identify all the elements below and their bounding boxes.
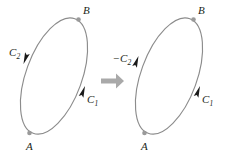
left-closed-curve [7,9,101,143]
right-diagram: B A − C 2 C 1 [113,4,216,152]
right-point-a-dot [142,131,147,136]
left-point-b-label: B [83,4,90,16]
left-arc-c2-label: C 2 [9,46,21,61]
left-arc-c2-subscript: 2 [17,52,21,61]
left-arc-c1-label: C 1 [87,93,98,108]
curve-orientation-figure: B A C 2 C 1 B A [0,0,225,160]
right-point-b-label: B [198,4,205,16]
right-arc-neg-c2-label: − C 2 [113,52,132,67]
left-point-a-label: A [25,140,33,152]
left-point-a-dot [27,131,32,136]
left-arc-c1-subscript: 1 [95,99,99,108]
right-closed-curve [122,9,216,143]
left-diagram: B A C 2 C 1 [7,4,101,152]
right-arc-neg-c2-subscript: 2 [128,58,132,67]
right-point-a-label: A [140,140,148,152]
right-arc-neg-c2-sign: − [113,52,119,64]
right-arc-c1-label: C 1 [202,93,213,108]
right-arc-c1-subscript: 1 [210,99,214,108]
left-point-b-dot [76,17,81,22]
right-point-b-dot [191,17,196,22]
implies-arrow-icon [101,74,124,89]
right-arc-neg-c2-arrowhead [132,55,141,68]
